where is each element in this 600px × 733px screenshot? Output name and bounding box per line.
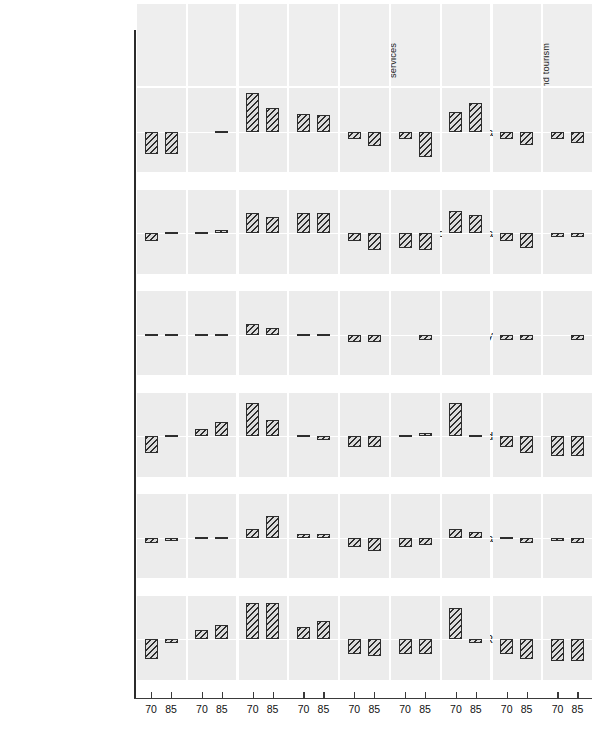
- bar: [266, 108, 279, 132]
- panel-cell: [391, 88, 440, 172]
- panel-cell: [543, 190, 592, 274]
- bar: [317, 334, 330, 336]
- x-axis-tick-mark: [507, 692, 508, 699]
- bar: [520, 132, 533, 145]
- panel-cell: [340, 88, 389, 172]
- bar: [165, 132, 178, 154]
- bar: [297, 334, 310, 336]
- grouped-bar-chart-panel-grid: AgricultureIndustryConstructionTransport…: [0, 0, 600, 733]
- column-header-label: Transport: [289, 43, 313, 86]
- bar: [399, 132, 412, 139]
- bar: [246, 603, 259, 640]
- bar: [348, 335, 361, 342]
- bar: [348, 132, 361, 139]
- bar: [500, 436, 513, 447]
- bar: [215, 230, 228, 234]
- row-panel-poland: [137, 393, 592, 477]
- bar: [500, 537, 513, 539]
- x-axis-tick-mark: [354, 692, 355, 699]
- column-header-text-wrapper: Transport: [289, 4, 338, 86]
- bar: [449, 211, 462, 233]
- bar: [195, 232, 208, 234]
- bar: [195, 429, 208, 436]
- bar: [469, 215, 482, 233]
- x-axis-tick-label: 70: [496, 703, 518, 715]
- bar: [246, 324, 259, 335]
- bar: [551, 538, 564, 542]
- bar: [399, 435, 412, 437]
- bar: [449, 529, 462, 538]
- panel-cell: [391, 291, 440, 375]
- column-header-education-and-culture: Education and culture: [493, 4, 542, 86]
- column-header-label: Industry: [188, 43, 212, 86]
- bar: [500, 639, 513, 654]
- bar: [317, 115, 330, 131]
- bar: [145, 334, 158, 336]
- bar: [165, 334, 178, 336]
- bar: [399, 233, 412, 248]
- bar: [368, 538, 381, 551]
- panel-cell: [391, 190, 440, 274]
- bar: [266, 420, 279, 436]
- bar: [297, 534, 310, 538]
- x-axis-tick-label: 85: [363, 703, 385, 715]
- x-axis-tick-mark: [273, 692, 274, 699]
- bar: [348, 639, 361, 654]
- bar: [317, 213, 330, 233]
- panel-cell: [340, 494, 389, 578]
- bar: [215, 422, 228, 437]
- bar: [348, 436, 361, 447]
- bar: [571, 132, 584, 143]
- x-axis-tick-label: 85: [312, 703, 334, 715]
- bar: [246, 529, 259, 538]
- x-axis-tick-mark: [405, 692, 406, 699]
- panel-cell: [340, 291, 389, 375]
- row-panel-czechoslovakia: [137, 190, 592, 274]
- x-axis-tick-mark: [425, 692, 426, 699]
- x-axis-tick-label: 70: [242, 703, 264, 715]
- bar: [551, 233, 564, 237]
- column-header-label: Education and culture: [493, 43, 517, 86]
- bar: [500, 233, 513, 240]
- panel-cell: [493, 88, 542, 172]
- bar: [469, 532, 482, 537]
- column-header-housing-and-community-services: Housing and community services: [391, 4, 440, 86]
- bar: [469, 103, 482, 132]
- bar: [145, 233, 158, 240]
- panel-cell: [543, 291, 592, 375]
- x-axis-tick-label: 85: [414, 703, 436, 715]
- x-axis-tick-mark: [577, 692, 578, 699]
- bar: [297, 213, 310, 233]
- bar: [571, 639, 584, 661]
- bar: [297, 114, 310, 132]
- column-header-text-wrapper: Health, social sec., sports and tourism: [543, 4, 592, 86]
- panel-cell: [543, 393, 592, 477]
- bar: [419, 233, 432, 249]
- bar: [215, 625, 228, 640]
- bar: [520, 335, 533, 340]
- bar: [195, 537, 208, 539]
- column-header-science-and-research: Science and research: [442, 4, 491, 86]
- row-panel-romania: [137, 494, 592, 578]
- bar: [399, 639, 412, 654]
- bar: [145, 639, 158, 659]
- bar: [419, 433, 432, 437]
- bar: [297, 435, 310, 437]
- bar: [469, 435, 482, 437]
- bar: [195, 630, 208, 639]
- x-axis-tick-label: 85: [160, 703, 182, 715]
- bar: [520, 436, 533, 452]
- row-panel-hungary: [137, 291, 592, 375]
- bar: [551, 639, 564, 661]
- bar: [165, 435, 178, 437]
- x-axis-tick-label: 70: [445, 703, 467, 715]
- bar: [571, 335, 584, 340]
- column-header-label: Construction: [239, 43, 263, 86]
- column-header-text-wrapper: Commerce: [340, 4, 389, 86]
- bar: [419, 639, 432, 654]
- panel-cell: [340, 393, 389, 477]
- x-axis-tick-mark: [171, 692, 172, 699]
- bar: [165, 538, 178, 542]
- bar: [266, 516, 279, 538]
- bar: [469, 639, 482, 643]
